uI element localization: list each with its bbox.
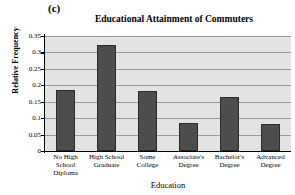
y-axis-tick-mark xyxy=(41,52,45,53)
gridline xyxy=(45,102,291,103)
x-axis-tick-label-line: Some xyxy=(127,153,168,161)
x-axis-tick-label: AdvancedDegree xyxy=(250,153,291,169)
x-axis-tick-label-line: College xyxy=(127,161,168,169)
bar xyxy=(261,124,281,151)
bar xyxy=(56,90,76,151)
x-axis-tick-label: Associate'sDegree xyxy=(168,153,209,169)
y-axis-tick-label: 0.1 xyxy=(13,114,41,122)
gridline xyxy=(45,52,291,53)
x-axis-tick-label-line: No High xyxy=(45,153,86,161)
y-axis-tick-label: 0.3 xyxy=(13,48,41,56)
gridline xyxy=(45,118,291,119)
y-axis-tick-label: 0.15 xyxy=(13,98,41,106)
plot-area xyxy=(45,36,291,151)
bar xyxy=(179,123,199,151)
y-axis-tick-label: 0.25 xyxy=(13,65,41,73)
bar xyxy=(97,45,117,151)
x-axis-tick-label-line: Diploma xyxy=(45,169,86,177)
x-axis-tick-label: No HighSchoolDiploma xyxy=(45,153,86,178)
x-axis-tick-label: Bachelor'sDegree xyxy=(209,153,250,169)
panel-letter: (c) xyxy=(48,2,60,14)
x-axis-title: Education xyxy=(45,180,291,190)
x-axis-tick-label-line: Degree xyxy=(209,161,250,169)
x-axis-tick-label-line: School xyxy=(45,161,86,169)
y-axis-tick-mark xyxy=(41,118,45,119)
y-axis-tick-label: 0.05 xyxy=(13,131,41,139)
x-axis-tick-label: SomeCollege xyxy=(127,153,168,169)
y-axis-tick-mark xyxy=(41,85,45,86)
y-axis-tick-label: 0.2 xyxy=(13,81,41,89)
bar xyxy=(220,97,240,151)
y-axis-tick-mark xyxy=(41,135,45,136)
x-axis-tick-label-line: Degree xyxy=(168,161,209,169)
y-axis-tick-mark xyxy=(41,102,45,103)
y-axis-tick-labels: 00.050.10.150.20.250.30.35 xyxy=(8,0,41,195)
y-axis-tick-label: 0 xyxy=(13,147,41,155)
x-axis-tick-label-line: Graduate xyxy=(86,161,127,169)
gridline xyxy=(45,135,291,136)
x-axis-tick-label-line: Associate's xyxy=(168,153,209,161)
chart-title: Educational Attainment of Commuters xyxy=(58,14,290,24)
x-axis-tick-label-line: Advanced xyxy=(250,153,291,161)
y-axis-tick-mark xyxy=(41,69,45,70)
x-axis-tick-label-line: Bachelor's xyxy=(209,153,250,161)
gridline xyxy=(45,85,291,86)
y-axis-tick-mark xyxy=(41,151,45,152)
chart-figure: (c) Educational Attainment of Commuters … xyxy=(0,0,295,195)
x-axis-tick-label-line: Degree xyxy=(250,161,291,169)
y-axis-tick-mark xyxy=(41,36,45,37)
gridline xyxy=(45,36,291,37)
gridline xyxy=(45,69,291,70)
y-axis-tick-label: 0.35 xyxy=(13,32,41,40)
x-axis-tick-label: High SchoolGraduate xyxy=(86,153,127,169)
x-axis-tick-label-line: High School xyxy=(86,153,127,161)
bar xyxy=(138,91,158,151)
